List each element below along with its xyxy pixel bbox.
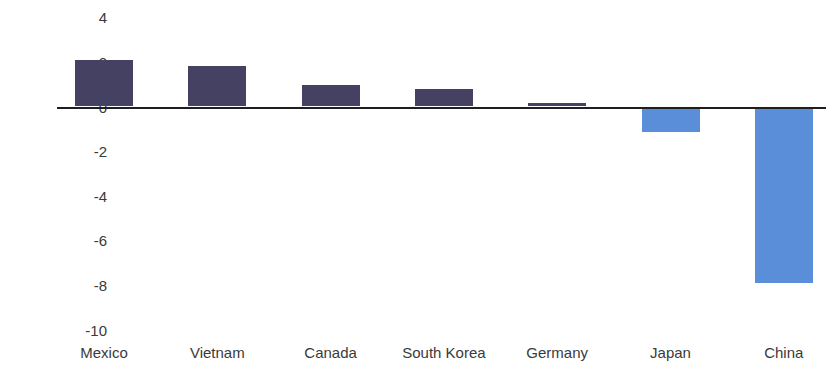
y-axis-tick-labels: 420-2-4-6-8-10 [57, 0, 107, 330]
zero-axis-line [57, 107, 826, 109]
y-axis-tick-label: -2 [63, 143, 107, 160]
y-axis-tick-label: -10 [63, 321, 107, 338]
y-axis-tick-label: -6 [63, 232, 107, 249]
plot-area: 420-2-4-6-8-10 [57, 0, 826, 330]
bar-chart-figure: 420-2-4-6-8-10 MexicoVietnamCanadaSouth … [0, 0, 826, 368]
bar-south-korea [415, 89, 473, 107]
bar-vietnam [188, 66, 246, 106]
x-axis-tick-label: China [714, 344, 826, 361]
bar-canada [302, 85, 360, 106]
bar-japan [642, 107, 700, 133]
y-axis-tick-label: -8 [63, 276, 107, 293]
y-axis-tick-label: 4 [63, 9, 107, 26]
y-axis-tick-label: -4 [63, 187, 107, 204]
bar-china [755, 107, 813, 283]
bar-mexico [75, 60, 133, 107]
x-axis-tick-labels: MexicoVietnamCanadaSouth KoreaGermanyJap… [57, 344, 826, 368]
